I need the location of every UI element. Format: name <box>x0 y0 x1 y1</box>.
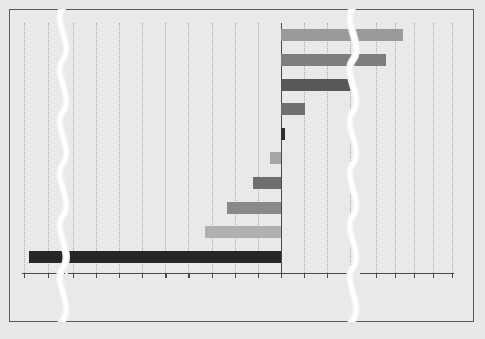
x-axis-tick <box>48 273 49 278</box>
gridline <box>96 23 97 273</box>
gridline <box>24 23 25 273</box>
gridline <box>395 23 396 273</box>
x-axis-tick <box>452 273 453 278</box>
x-axis-tick <box>414 273 415 278</box>
axis-break-wave <box>343 9 369 322</box>
gridline <box>48 23 49 273</box>
gridline <box>142 23 143 273</box>
gridline <box>119 23 120 273</box>
x-axis-line <box>360 273 454 274</box>
gridline <box>433 23 434 273</box>
bar-united-kingdom <box>281 128 286 140</box>
x-axis-tick <box>165 273 166 278</box>
x-axis-tick <box>304 273 305 278</box>
x-axis-tick <box>376 273 377 278</box>
x-axis-tick <box>119 273 120 278</box>
x-axis-tick <box>395 273 396 278</box>
x-axis-tick <box>24 273 25 278</box>
bar-japan <box>270 152 280 164</box>
x-axis-tick <box>433 273 434 278</box>
bar-canada <box>227 202 281 214</box>
bar-mexico <box>281 103 305 115</box>
x-axis-tick <box>258 273 259 278</box>
chart-root <box>0 0 485 339</box>
gridline <box>165 23 166 273</box>
axis-break-wave <box>53 9 79 322</box>
x-axis-tick <box>142 273 143 278</box>
gridline <box>414 23 415 273</box>
x-axis-tick <box>281 273 282 278</box>
bar-france <box>205 226 281 238</box>
x-axis-tick <box>188 273 189 278</box>
x-axis-tick <box>212 273 213 278</box>
x-axis-tick <box>235 273 236 278</box>
bar-germany <box>281 54 386 66</box>
bar-bangladesh <box>253 177 281 189</box>
gridline <box>188 23 189 273</box>
bar-south-korea <box>281 79 353 91</box>
x-axis-tick <box>327 273 328 278</box>
gridline <box>452 23 453 273</box>
x-axis-tick <box>96 273 97 278</box>
x-axis-line <box>68 273 352 274</box>
bar-china <box>281 29 403 41</box>
